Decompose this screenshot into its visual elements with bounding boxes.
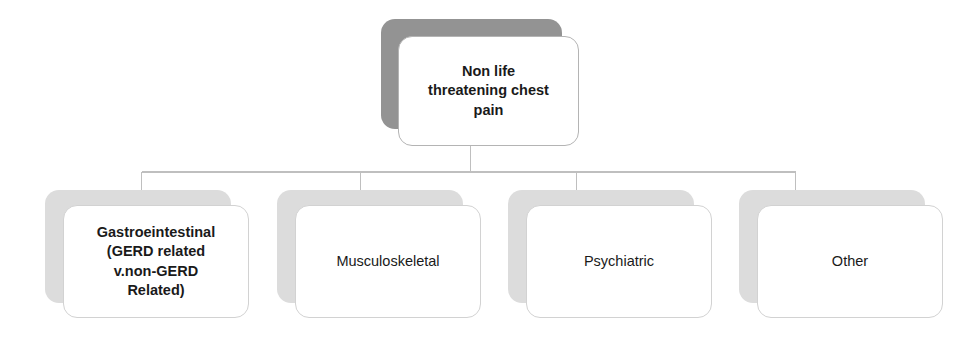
node-psychiatric-card: Psychiatric xyxy=(526,205,712,318)
node-musculoskeletal-label: Musculoskeletal xyxy=(328,250,447,273)
node-musculoskeletal-card: Musculoskeletal xyxy=(295,205,481,318)
node-root-card: Non life threatening chest pain xyxy=(398,36,579,146)
node-root-label: Non life threatening chest pain xyxy=(420,60,557,121)
node-gastrointestinal: Gastroeintestinal (GERD related v.non-GE… xyxy=(45,190,231,303)
node-gastrointestinal-label: Gastroeintestinal (GERD related v.non-GE… xyxy=(89,221,223,302)
node-other-label: Other xyxy=(824,250,876,273)
node-gastrointestinal-card: Gastroeintestinal (GERD related v.non-GE… xyxy=(63,205,249,318)
node-other-card: Other xyxy=(757,205,943,318)
flowchart-diagram: Non life threatening chest pain Gastroei… xyxy=(0,0,957,354)
node-psychiatric: Psychiatric xyxy=(508,190,694,303)
node-musculoskeletal: Musculoskeletal xyxy=(277,190,463,303)
node-root: Non life threatening chest pain xyxy=(381,19,562,129)
node-other: Other xyxy=(739,190,925,303)
node-psychiatric-label: Psychiatric xyxy=(576,250,662,273)
